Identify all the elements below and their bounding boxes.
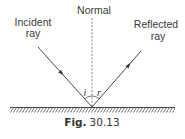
incident-ray-label-line2: ray <box>26 27 41 39</box>
reflection-diagram: Normal Incident ray Reflected ray i r Fi… <box>0 0 185 139</box>
incident-ray <box>38 47 92 107</box>
normal-label: Normal <box>77 4 111 16</box>
angle-i-label: i <box>84 87 87 98</box>
reflected-ray <box>92 51 141 107</box>
mirror-hatching <box>10 108 175 113</box>
caption-prefix: Fig. <box>64 116 86 128</box>
angle-r-label: r <box>97 87 101 98</box>
figure-caption: Fig.30.13 <box>64 116 119 128</box>
reflected-ray-label-line2: ray <box>151 30 166 42</box>
caption-number: 30.13 <box>90 116 120 128</box>
reflected-ray-label-line1: Reflected <box>134 18 179 30</box>
